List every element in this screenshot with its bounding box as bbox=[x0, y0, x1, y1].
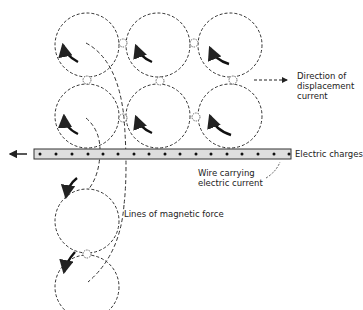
vortex-r2c3 bbox=[198, 84, 262, 148]
wire-label: Wire carrying electric current bbox=[198, 168, 263, 188]
vortex-r1c1 bbox=[55, 13, 119, 77]
vortex-r3c1 bbox=[55, 189, 119, 253]
wire-leader-line bbox=[266, 162, 280, 178]
vortex-r4c1 bbox=[55, 255, 119, 310]
wire-label-line2: electric current bbox=[198, 178, 263, 188]
vortex-r1c2 bbox=[126, 13, 190, 77]
electric-charges-label: Electric charges bbox=[295, 149, 363, 159]
vortex-r1c3 bbox=[198, 13, 262, 77]
wire bbox=[10, 149, 291, 159]
displacement-label-line3: current bbox=[297, 91, 354, 101]
wire-label-line1: Wire carrying bbox=[198, 168, 263, 178]
magnetic-force-label: Lines of magnetic force bbox=[124, 209, 224, 219]
displacement-label-line2: displacement bbox=[297, 81, 354, 91]
magnetic-force-lines bbox=[86, 43, 126, 282]
vortex-cells bbox=[55, 13, 262, 310]
vortex-r2c2 bbox=[126, 84, 190, 148]
displacement-label-line1: Direction of bbox=[297, 71, 354, 81]
displacement-label: Direction of displacement current bbox=[297, 71, 354, 101]
